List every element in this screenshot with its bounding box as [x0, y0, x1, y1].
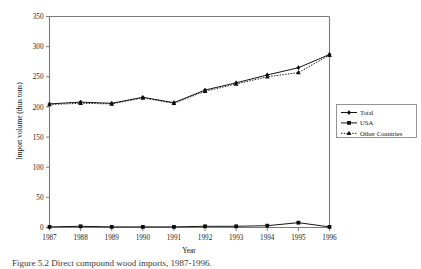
y-tick-label: 200 — [33, 104, 44, 112]
figure-caption-text: Figure 5.2 Direct compound wood imports,… — [12, 258, 272, 269]
data-point-marker — [110, 225, 114, 229]
data-point-marker — [328, 225, 332, 229]
y-tick-label: 150 — [33, 134, 44, 142]
y-tick-label: 350 — [33, 13, 44, 21]
chart-legend[interactable]: TotalUSAOther Countries — [337, 105, 417, 138]
y-tick-label: 50 — [36, 194, 44, 202]
data-point-marker — [296, 221, 300, 225]
plot-axes — [50, 17, 330, 228]
data-series-group — [47, 52, 332, 229]
figure-caption: Figure 5.2 Direct compound wood imports,… — [12, 258, 272, 269]
legend-label: Other Countries — [360, 130, 403, 137]
x-tick-label: 1987 — [42, 234, 57, 242]
data-point-marker — [79, 224, 83, 228]
y-axis-ticks: 050100150200250300350 — [33, 13, 50, 232]
x-tick-label: 1993 — [229, 234, 244, 242]
series-line — [50, 54, 330, 103]
x-tick-label: 1995 — [291, 234, 306, 242]
data-point-marker — [296, 70, 301, 74]
series-other-countries — [47, 53, 332, 107]
x-tick-label: 1990 — [136, 234, 151, 242]
data-point-marker — [172, 225, 176, 229]
line-chart: 050100150200250300350 198719881989199019… — [0, 0, 421, 269]
x-axis-ticks: 1987198819891990199119921993199419951996 — [42, 228, 337, 242]
figure-container: 050100150200250300350 198719881989199019… — [0, 0, 421, 269]
legend-label: USA — [360, 119, 373, 126]
data-point-marker — [141, 225, 145, 229]
x-tick-label: 1994 — [260, 234, 275, 242]
x-tick-label: 1996 — [322, 234, 337, 242]
data-point-marker — [265, 224, 269, 228]
x-tick-label: 1989 — [105, 234, 120, 242]
data-point-marker — [296, 65, 300, 70]
y-tick-label: 250 — [33, 73, 44, 81]
x-tick-label: 1991 — [167, 234, 182, 242]
series-line — [50, 55, 330, 104]
x-axis-title: Year — [182, 246, 196, 255]
y-tick-label: 0 — [40, 224, 44, 232]
data-point-marker — [48, 225, 52, 229]
data-point-marker — [203, 224, 207, 228]
y-axis-title: Import volume (thus tons) — [15, 82, 24, 160]
legend-label: Total — [360, 109, 374, 116]
x-tick-label: 1992 — [198, 234, 213, 242]
series-total — [48, 52, 332, 106]
data-point-marker — [234, 224, 238, 228]
y-tick-label: 300 — [33, 43, 44, 51]
series-line — [50, 223, 330, 227]
y-tick-label: 100 — [33, 164, 44, 172]
x-tick-label: 1988 — [73, 234, 88, 242]
data-point-marker — [347, 121, 351, 125]
